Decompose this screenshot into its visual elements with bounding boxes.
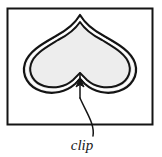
clip-region-diagram: clip xyxy=(0,0,162,157)
diagram-canvas: clip xyxy=(0,0,162,157)
clip-label: clip xyxy=(71,137,94,153)
